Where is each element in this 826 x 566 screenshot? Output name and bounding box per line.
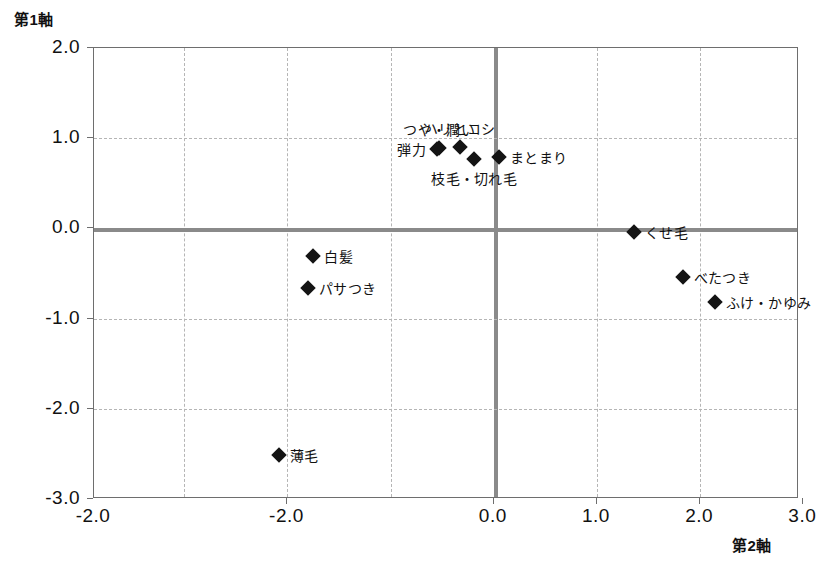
gridline-horizontal [94, 228, 797, 232]
gridline-horizontal [94, 409, 797, 410]
gridline-vertical [391, 48, 392, 497]
x-axis-tick [596, 498, 597, 504]
gridline-vertical [287, 48, 288, 497]
y-axis-tick-label: 0.0 [18, 216, 80, 238]
data-point [626, 224, 642, 240]
data-point [305, 249, 321, 265]
gridline-horizontal [94, 319, 797, 320]
data-point [466, 151, 482, 167]
x-axis-tick-label: 0.0 [479, 505, 507, 527]
y-axis-tick [87, 227, 93, 228]
x-axis-tick-label: -2.0 [76, 505, 111, 527]
y-axis-tick [87, 498, 93, 499]
data-point-label: 枝毛・切れ毛 [431, 168, 517, 188]
x-axis-tick [802, 498, 803, 504]
data-point [675, 269, 691, 285]
data-point [491, 149, 507, 165]
x-axis-tick-label: 1.0 [582, 505, 610, 527]
data-point [300, 280, 316, 296]
y-axis-tick [87, 408, 93, 409]
x-axis-tick [699, 498, 700, 504]
data-point-label: 薄毛 [290, 445, 319, 465]
data-point-label: ふけ・かゆみ [726, 292, 812, 312]
x-axis-tick-label: 3.0 [788, 505, 816, 527]
y-axis-title: 第1軸 [14, 8, 54, 29]
data-point-label: 弾力 [397, 139, 426, 159]
data-point [452, 139, 468, 155]
data-point-label: まとまり [510, 147, 567, 167]
data-point [271, 447, 287, 463]
plot-area: つや・潤いハリとコシ弾力まとまり枝毛・切れ毛くせ毛白髪パサつきべたつきふけ・かゆ… [93, 47, 798, 498]
y-axis-tick [87, 318, 93, 319]
x-axis-tick [493, 498, 494, 504]
data-point-label: パサつき [319, 278, 376, 298]
y-axis-tick-label: -1.0 [18, 307, 80, 329]
gridline-vertical [494, 48, 498, 497]
y-axis-tick-label: -2.0 [18, 397, 80, 419]
y-axis-tick-label: -3.0 [18, 487, 80, 509]
x-axis-tick-label: 2.0 [685, 505, 713, 527]
gridline-vertical [597, 48, 598, 497]
y-axis-tick-label: 2.0 [18, 36, 80, 58]
data-point-label: ハリとコシ [424, 118, 496, 138]
y-axis-tick [87, 137, 93, 138]
data-point-label: 白髪 [324, 246, 353, 266]
gridline-vertical [184, 48, 185, 497]
data-point-label: くせ毛 [645, 222, 688, 242]
x-axis-tick-label: -2.0 [269, 505, 304, 527]
scatter-chart: 第1軸 つや・潤いハリとコシ弾力まとまり枝毛・切れ毛くせ毛白髪パサつきべたつきふ… [0, 0, 826, 566]
y-axis-tick [87, 47, 93, 48]
y-axis-tick-label: 1.0 [18, 126, 80, 148]
data-point [707, 295, 723, 311]
x-axis-title: 第2軸 [732, 534, 772, 555]
data-point-label: べたつき [694, 267, 751, 287]
x-axis-tick [286, 498, 287, 504]
